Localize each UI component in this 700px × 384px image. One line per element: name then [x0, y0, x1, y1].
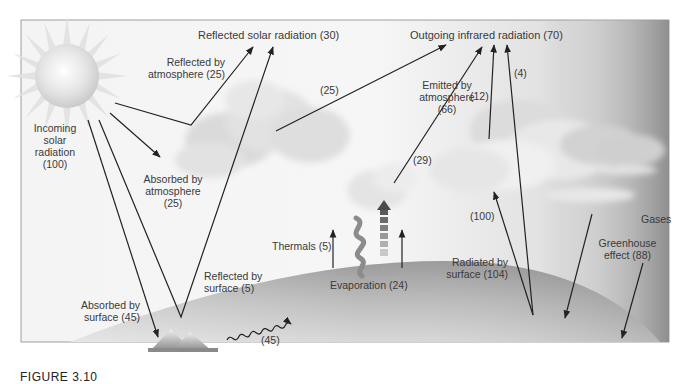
label-line: solar: [30, 134, 80, 146]
label-line: surface (104): [440, 268, 508, 280]
figure-caption: FIGURE 3.10: [20, 370, 98, 384]
label-line: surface (45): [62, 311, 140, 323]
label-reflected-by-atmosphere: Reflected by atmosphere (25): [140, 56, 225, 80]
label-value-25-atmosphere: (25): [320, 84, 339, 96]
label-radiated-by-surface: Radiated by surface (104): [440, 256, 508, 280]
label-line: (25): [138, 197, 208, 209]
label-line: Reflected by: [204, 270, 262, 282]
label-value-100: (100): [470, 210, 495, 222]
label-absorbed-by-surface: Absorbed by surface (45): [62, 299, 140, 323]
label-outgoing-infrared-radiation: Outgoing infrared radiation (70): [410, 29, 563, 41]
label-evaporation: Evaporation (24): [330, 279, 408, 291]
label-value-12: (12): [470, 90, 489, 102]
label-reflected-by-surface: Reflected by surface (5): [204, 270, 262, 294]
label-line: Incoming: [30, 122, 80, 134]
label-line: surface (5): [204, 282, 262, 294]
label-line: effect (88): [595, 249, 660, 261]
sun-icon: [7, 16, 127, 136]
label-line: atmosphere: [138, 185, 208, 197]
label-incoming-solar-radiation: Incoming solar radiation (100): [30, 122, 80, 170]
label-value-4: (4): [514, 67, 527, 79]
label-greenhouse-effect: Greenhouse effect (88): [595, 237, 660, 261]
label-line: Absorbed by: [138, 173, 208, 185]
label-value-29: (29): [413, 154, 432, 166]
label-line: atmosphere (25): [140, 68, 225, 80]
label-line: (100): [30, 158, 80, 170]
label-line: Reflected by: [140, 56, 225, 68]
label-line: Absorbed by: [62, 299, 140, 311]
label-line: Radiated by: [440, 256, 508, 268]
label-line: radiation: [30, 146, 80, 158]
label-absorbed-by-atmosphere: Absorbed by atmosphere (25): [138, 173, 208, 209]
label-thermals: Thermals (5): [272, 240, 332, 252]
label-value-45: (45): [261, 334, 280, 346]
label-reflected-solar-radiation: Reflected solar radiation (30): [198, 29, 339, 41]
label-line: (66): [412, 103, 482, 115]
label-line: Greenhouse: [595, 237, 660, 249]
label-gases: Gases: [641, 213, 671, 225]
